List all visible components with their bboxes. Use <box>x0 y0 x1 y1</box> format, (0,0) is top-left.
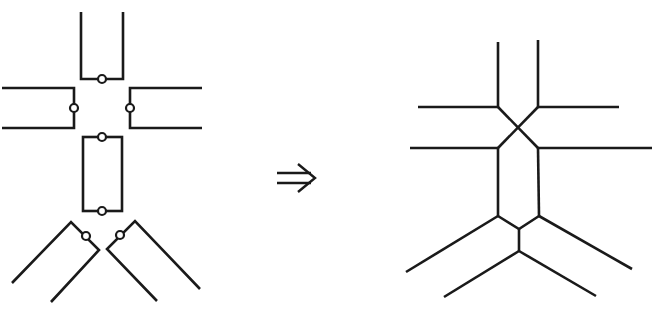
port-circle-icon <box>98 207 106 215</box>
left-diagram <box>2 12 202 302</box>
edge-inner-join <box>498 216 539 229</box>
port-circle-icon <box>116 231 124 239</box>
piece-lower-left-v <box>12 222 99 302</box>
middle-rect-outline <box>83 137 122 211</box>
top-u-outline <box>81 12 123 79</box>
left-bracket-outline <box>2 88 74 128</box>
edge-middle-right-vertical <box>538 148 539 216</box>
right-diagram <box>406 40 652 297</box>
port-circle-icon <box>98 75 106 83</box>
piece-right-bracket <box>126 88 202 128</box>
piece-top-u <box>81 12 123 83</box>
edge-outer-left-diagonal <box>406 216 498 272</box>
port-circle-icon <box>82 232 90 240</box>
port-circle-icon <box>70 104 78 112</box>
diagram-canvas: Separate pieces with gluing ports implie… <box>0 0 659 311</box>
piece-lower-right-v <box>107 221 200 301</box>
edge-outer-right-diagonal <box>539 216 632 269</box>
edge-lower-left-diagonal <box>444 251 519 297</box>
piece-left-bracket <box>2 88 78 128</box>
right-bracket-outline <box>130 88 202 128</box>
port-circle-icon <box>126 104 134 112</box>
implies-arrow-icon <box>277 164 315 192</box>
edge-lower-right-diagonal <box>519 251 596 296</box>
port-circle-icon <box>98 133 106 141</box>
diagram-svg <box>0 0 659 311</box>
piece-middle-rect <box>83 133 122 215</box>
